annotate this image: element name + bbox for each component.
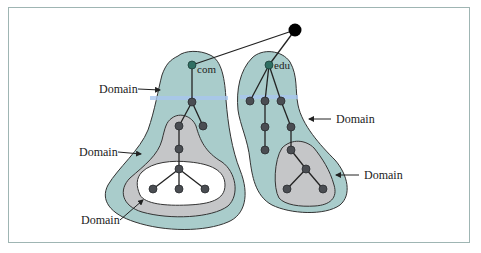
tree-node [261, 146, 269, 154]
tree-node [302, 165, 310, 173]
domain-label-com-outer: Domain [99, 82, 138, 96]
root-node [289, 24, 302, 37]
domain-label-com-inner: Domain [81, 213, 120, 227]
tree-node [175, 145, 183, 153]
tree-node [175, 122, 183, 130]
tree-node [287, 123, 295, 131]
domain-label-edu-outer: Domain [336, 112, 375, 126]
edu-label: edu [274, 59, 290, 71]
dns-diagram: com edu Domain Domain Domain Domain Doma… [0, 0, 481, 253]
tree-node [188, 98, 196, 106]
tree-node [283, 185, 291, 193]
tree-node [287, 146, 295, 154]
tree-node [277, 97, 285, 105]
tree-node [261, 97, 269, 105]
tree-node [149, 185, 157, 193]
tree-node [319, 185, 327, 193]
tree-node [175, 165, 183, 173]
tree-node [199, 122, 207, 130]
tree-node [201, 185, 209, 193]
domain-label-edu-inner: Domain [364, 168, 403, 182]
arrow-com-outer [138, 89, 160, 90]
domain-label-com-middle: Domain [79, 145, 118, 159]
tree-node [261, 123, 269, 131]
tree-node [246, 97, 254, 105]
com-label: com [197, 63, 216, 75]
com-node [188, 61, 196, 69]
edu-node [265, 61, 273, 69]
tree-node [175, 185, 183, 193]
